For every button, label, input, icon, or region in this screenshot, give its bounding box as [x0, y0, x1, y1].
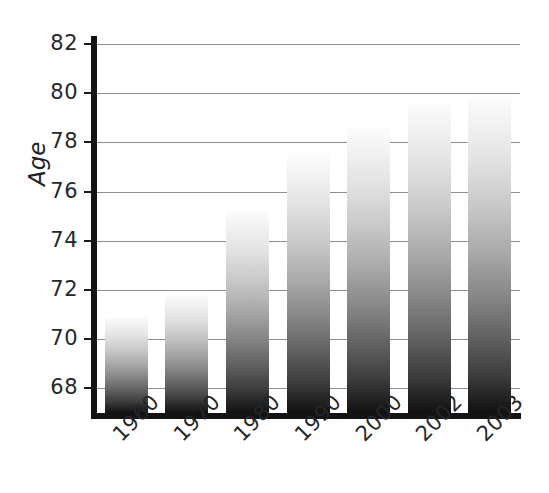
y-tick-label: 78 — [0, 131, 78, 152]
y-tick-label: 82 — [0, 33, 78, 54]
gridline — [96, 93, 520, 94]
y-tick-label: 76 — [0, 181, 78, 202]
bar — [347, 128, 390, 413]
y-tick-label: 80 — [0, 82, 78, 103]
y-tick-label: 72 — [0, 279, 78, 300]
bar — [226, 211, 269, 413]
gridline — [96, 44, 520, 45]
bar — [287, 155, 330, 413]
bar — [408, 103, 451, 413]
chart-figure: Age 6870727476788082 1960197019801990200… — [0, 0, 549, 493]
y-tick-label: 74 — [0, 230, 78, 251]
gridline — [96, 142, 520, 143]
plot-area — [96, 44, 520, 413]
y-tick-label: 68 — [0, 377, 78, 398]
y-axis-line — [91, 36, 97, 419]
y-tick-label: 70 — [0, 328, 78, 349]
bar — [468, 98, 511, 413]
